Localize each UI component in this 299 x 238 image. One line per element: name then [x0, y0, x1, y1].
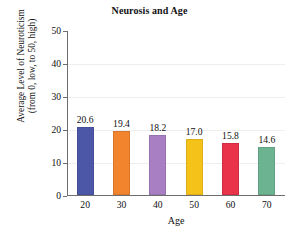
y-tick-label: 0 [56, 191, 61, 201]
gridline [67, 97, 285, 98]
x-tick-label: 20 [77, 200, 94, 210]
plot-background [67, 31, 285, 196]
x-tick-label: 60 [222, 200, 239, 210]
bar[interactable] [258, 147, 275, 195]
y-axis-label-line-2: (from 0, low, to 50, high) [27, 19, 38, 114]
bar-group[interactable]: 15.860 [222, 143, 239, 195]
chart-figure: Neurosis and Age Average Level of Neurot… [0, 0, 299, 238]
bar[interactable] [113, 131, 130, 195]
y-tick-label: 10 [51, 158, 61, 168]
y-tick-label: 20 [51, 125, 61, 135]
bar-group[interactable]: 19.430 [113, 131, 130, 195]
y-tick-mark [63, 196, 67, 197]
bar-group[interactable]: 14.670 [258, 147, 275, 195]
x-tick-label: 30 [113, 200, 130, 210]
bar-group[interactable]: 20.620 [77, 127, 94, 195]
y-axis-label-line-1: Average Level of Neuroticism [16, 9, 27, 123]
bar[interactable] [149, 135, 166, 195]
x-axis-label: Age [67, 215, 285, 226]
y-tick-label: 40 [51, 59, 61, 69]
bar[interactable] [77, 127, 94, 195]
bar-value-label: 20.6 [77, 115, 94, 125]
bar-value-label: 19.4 [113, 119, 130, 129]
bar-value-label: 14.6 [258, 135, 275, 145]
bar-value-label: 17.0 [186, 127, 203, 137]
y-tick-label: 50 [51, 26, 61, 36]
x-tick-label: 40 [149, 200, 166, 210]
x-tick-label: 50 [186, 200, 203, 210]
x-tick-label: 70 [258, 200, 275, 210]
gridline [67, 130, 285, 131]
gridline [67, 163, 285, 164]
bar[interactable] [186, 139, 203, 195]
bar-value-label: 18.2 [149, 123, 166, 133]
gridline [67, 64, 285, 65]
y-axis-label: Average Level of Neuroticism (from 0, lo… [10, 0, 44, 146]
plot-area: 01020304050 20.62019.43018.24017.05015.8… [67, 31, 285, 196]
y-tick-label: 30 [51, 92, 61, 102]
x-axis-spine [67, 195, 285, 196]
chart-title: Neurosis and Age [0, 5, 299, 16]
y-axis-spine [67, 31, 68, 196]
bar-group[interactable]: 17.050 [186, 139, 203, 195]
bar-value-label: 15.8 [222, 131, 239, 141]
bar-group[interactable]: 18.240 [149, 135, 166, 195]
bar[interactable] [222, 143, 239, 195]
